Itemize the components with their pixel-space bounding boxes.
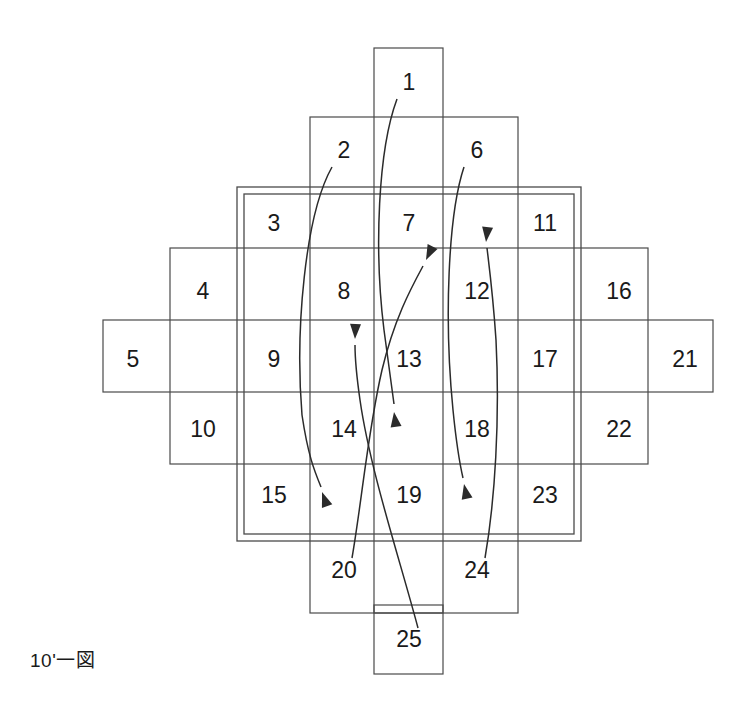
cell-number-17: 17: [532, 346, 558, 372]
cell-number-21: 21: [672, 346, 698, 372]
cell-number-20: 20: [331, 557, 357, 583]
leader-from-6: [448, 167, 464, 478]
cell-number-9: 9: [268, 346, 281, 372]
cell-number-22: 22: [606, 416, 632, 442]
cell-number-15: 15: [261, 482, 287, 508]
leader-from-1: [379, 99, 397, 404]
cell-number-3: 3: [268, 210, 281, 236]
leader-from-2-arrowhead-icon: [317, 490, 332, 508]
cell-number-13: 13: [396, 346, 422, 372]
leader-from-1-arrowhead-icon: [389, 411, 402, 427]
leader-from-25-arrowhead-icon: [350, 324, 362, 339]
patent-figure-diagram: 1234567891011121314151617181920212223242…: [0, 0, 754, 714]
leader-from-24-arrowhead-icon: [481, 227, 494, 243]
leader-from-20-arrowhead-icon: [421, 244, 437, 262]
cell-number-14: 14: [331, 416, 357, 442]
figure-caption: 10'一図: [30, 645, 95, 672]
cell-number-11: 11: [533, 210, 557, 236]
cell-number-7: 7: [403, 210, 416, 236]
leader-from-2: [300, 167, 332, 487]
cell-number-19: 19: [396, 482, 422, 508]
cell-numbers-group: 1234567891011121314151617181920212223242…: [127, 69, 698, 652]
cell-number-25: 25: [396, 626, 422, 652]
cell-number-10: 10: [190, 416, 216, 442]
cell-number-6: 6: [471, 137, 484, 163]
cell-number-18: 18: [464, 416, 490, 442]
leader-from-20: [352, 266, 423, 558]
cell-number-1: 1: [403, 69, 416, 95]
cell-number-12: 12: [464, 278, 490, 304]
cell-number-24: 24: [464, 557, 490, 583]
cell-number-2: 2: [338, 137, 351, 163]
cell-number-16: 16: [606, 278, 632, 304]
cell-number-5: 5: [127, 346, 140, 372]
cell-number-23: 23: [532, 482, 558, 508]
leader-from-6-arrowhead-icon: [459, 483, 473, 500]
figure-root: 1234567891011121314151617181920212223242…: [0, 0, 754, 714]
cell-number-4: 4: [197, 278, 210, 304]
cell-number-8: 8: [338, 278, 351, 304]
